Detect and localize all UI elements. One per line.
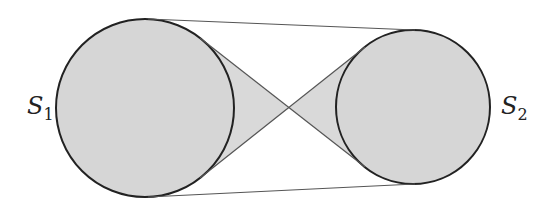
sphere-s2 <box>336 30 490 184</box>
label-s2: S2 <box>501 92 528 124</box>
label-s1: S1 <box>27 92 54 124</box>
sphere-s1 <box>56 19 234 197</box>
two-spheres-diagram <box>0 0 548 207</box>
external-tangent-top <box>148 19 415 30</box>
